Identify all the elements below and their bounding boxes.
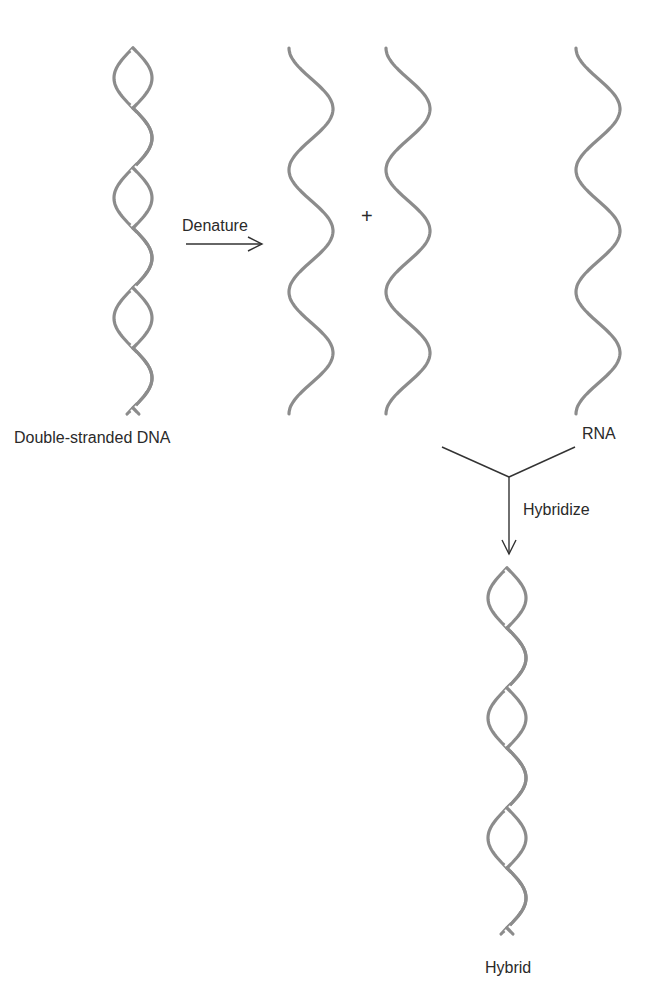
- hybridize-label: Hybridize: [523, 502, 590, 518]
- single-strand-dna-2: [386, 48, 430, 414]
- hybridize-merge-lines: [442, 447, 575, 477]
- dna-hybridization-diagram: Denature + Double-stranded DNA RNA Hybri…: [0, 0, 663, 1002]
- rna-label: RNA: [582, 426, 616, 442]
- hybridize-arrow: [502, 477, 516, 554]
- denature-arrow: [186, 237, 262, 251]
- hybrid-label: Hybrid: [485, 960, 531, 976]
- hybrid-helix: [488, 568, 526, 934]
- plus-sign: +: [361, 206, 373, 226]
- single-strand-dna-1: [289, 48, 333, 414]
- double-stranded-dna-label: Double-stranded DNA: [14, 430, 171, 446]
- double-stranded-dna-helix: [114, 48, 152, 414]
- denature-label: Denature: [182, 218, 248, 234]
- rna-strand: [576, 48, 620, 414]
